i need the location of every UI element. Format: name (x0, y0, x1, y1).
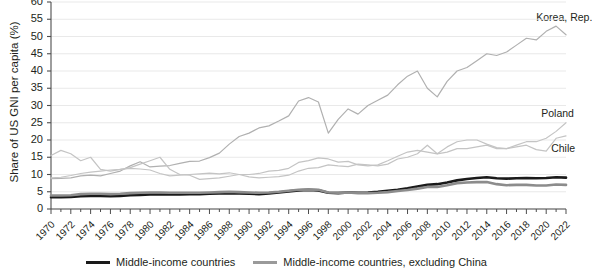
legend-item-middle-income-excluding-china: Middle-income countries, excluding China (253, 256, 487, 268)
legend-swatch-middle-income-excluding-china (253, 261, 277, 264)
legend-item-middle-income: Middle-income countries (86, 256, 235, 268)
chart-legend: Middle-income countries Middle-income co… (0, 252, 573, 272)
legend-label-middle-income: Middle-income countries (116, 256, 235, 268)
legend-label-middle-income-excluding-china: Middle-income countries, excluding China (283, 256, 487, 268)
legend-swatch-middle-income (86, 261, 110, 264)
